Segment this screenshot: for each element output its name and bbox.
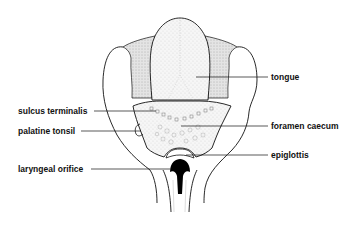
label-laryngeal-orifice: laryngeal orifice [18, 165, 83, 174]
tongue-root [133, 101, 231, 157]
label-palatine-tonsil: palatine tonsil [18, 127, 75, 136]
label-foramen-caecum: foramen caecum [271, 122, 339, 131]
anatomy-illustration [0, 0, 358, 235]
label-tongue: tongue [271, 73, 299, 82]
label-sulcus-terminalis: sulcus terminalis [18, 107, 87, 116]
label-epiglottis: epiglottis [271, 151, 309, 160]
laryngeal-orifice [170, 159, 190, 194]
